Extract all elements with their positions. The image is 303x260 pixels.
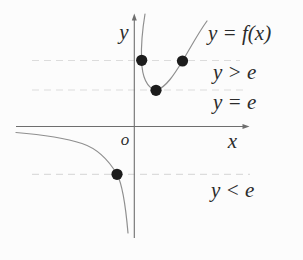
origin-label: o: [121, 130, 130, 149]
curve-equation-label: y = f(x): [206, 21, 271, 45]
axes: [16, 14, 250, 239]
point-intersection-left-upper: [136, 55, 147, 66]
y-axis-arrow-icon: [132, 14, 137, 21]
y-axis-label: y: [117, 20, 129, 44]
figure-svg: y x o y = f(x) y > e y = e y < e: [0, 0, 303, 260]
point-minimum-point: [150, 85, 161, 96]
point-intersection-right-upper: [177, 55, 188, 66]
function-curve: [16, 14, 207, 233]
curve-left-branch: [16, 133, 128, 234]
region-label-above-e: y > e: [211, 60, 256, 84]
curve-right-branch: [141, 14, 207, 91]
point-intersection-lower-branch: [111, 169, 122, 180]
x-axis-label: x: [227, 129, 238, 153]
marked-points: [111, 55, 188, 180]
region-label-below-e: y < e: [209, 178, 254, 202]
x-axis-arrow-icon: [243, 124, 250, 129]
region-label-equal-e: y = e: [211, 90, 256, 114]
function-graph-figure: y x o y = f(x) y > e y = e y < e: [0, 0, 303, 260]
